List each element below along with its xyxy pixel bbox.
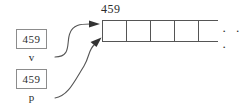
diagram-canvas: 459 v 459 p 459: [0, 0, 252, 107]
array-cell-dividers: [127, 20, 199, 42]
arrow-v-to-array: [55, 21, 100, 58]
array-continuation-ellipsis: · · ·: [222, 23, 252, 55]
array-rails: [102, 21, 218, 42]
diagram-vector-layer: [0, 0, 252, 107]
arrow-p-to-array: [55, 38, 102, 99]
